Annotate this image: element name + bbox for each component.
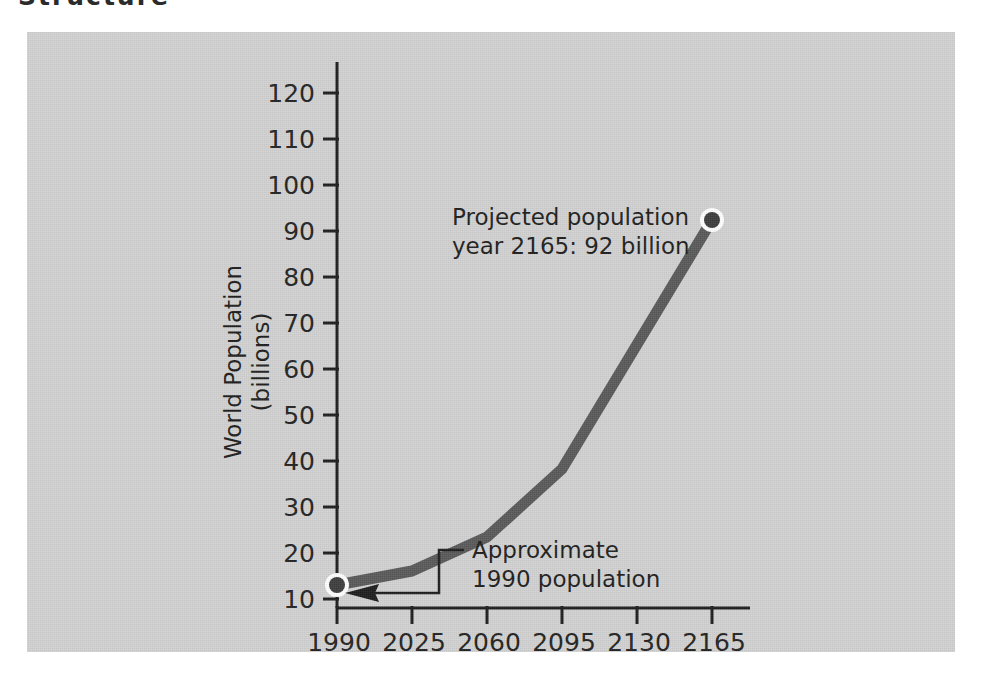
chart-panel: 120 110 100 90 80 70 60 50 40 30 20 10 1… bbox=[27, 32, 955, 652]
y-tick-label: 100 bbox=[267, 171, 315, 200]
y-tick-label: 40 bbox=[283, 447, 315, 476]
y-tick-label: 30 bbox=[283, 493, 315, 522]
x-tick-label: 2165 bbox=[682, 628, 746, 652]
annotation-approx-line1: Approximate bbox=[472, 537, 619, 563]
x-tick-label: 1990 bbox=[307, 628, 371, 652]
figure-heading-cutoff: Structure bbox=[18, 0, 418, 8]
y-axis-title-line2: (billions) bbox=[248, 313, 274, 412]
annotation-projected-line2: year 2165: 92 billion bbox=[452, 233, 690, 259]
marker-1990 bbox=[329, 577, 345, 593]
x-tick-label: 2025 bbox=[382, 628, 446, 652]
y-tick-label: 80 bbox=[283, 263, 315, 292]
population-line-chart: 120 110 100 90 80 70 60 50 40 30 20 10 1… bbox=[27, 32, 955, 652]
y-axis-tick-labels: 120 110 100 90 80 70 60 50 40 30 20 10 bbox=[267, 79, 315, 614]
x-tick-label: 2060 bbox=[457, 628, 521, 652]
y-axis-title: World Population (billions) bbox=[220, 265, 274, 459]
y-tick-label: 10 bbox=[283, 585, 315, 614]
population-data-line bbox=[337, 220, 712, 585]
y-tick-label: 50 bbox=[283, 401, 315, 430]
y-tick-label: 110 bbox=[267, 125, 315, 154]
y-axis-title-line1: World Population bbox=[220, 265, 246, 459]
annotation-projected-line1: Projected population bbox=[452, 204, 689, 230]
marker-2165 bbox=[704, 212, 720, 228]
x-tick-label: 2095 bbox=[532, 628, 596, 652]
annotation-approx-line2: 1990 population bbox=[472, 566, 660, 592]
y-tick-label: 120 bbox=[267, 79, 315, 108]
y-tick-label: 70 bbox=[283, 309, 315, 338]
x-axis-tick-labels: 1990 2025 2060 2095 2130 2165 bbox=[307, 628, 746, 652]
y-tick-label: 90 bbox=[283, 217, 315, 246]
y-tick-label: 20 bbox=[283, 539, 315, 568]
y-tick-label: 60 bbox=[283, 355, 315, 384]
x-tick-label: 2130 bbox=[607, 628, 671, 652]
annotation-projected-population: Projected population year 2165: 92 billi… bbox=[452, 204, 690, 259]
